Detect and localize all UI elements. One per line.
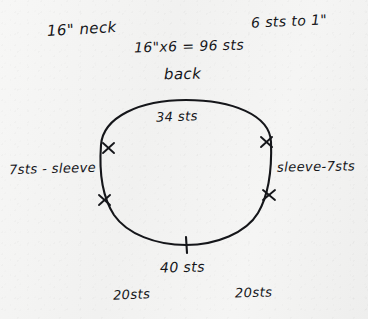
left-shoulder-stitch-count-label: 20sts <box>113 287 151 301</box>
neck-measure-note: 16" neck <box>47 20 117 39</box>
right-shoulder-stitch-count-label: 20sts <box>235 286 273 300</box>
front-stitch-count-label: 40 sts <box>160 260 205 275</box>
right-sleeve-label: sleeve-7sts <box>277 159 355 173</box>
gauge-note: 6 sts to 1" <box>251 12 328 29</box>
bottom-center-marker <box>186 237 187 253</box>
back-label: back <box>164 67 202 83</box>
handwritten-sketch-page: 16" neck 6 sts to 1" 16"x6 = 96 sts back… <box>0 0 368 319</box>
back-stitch-count-label: 34 sts <box>156 109 198 123</box>
stitch-calculation-note: 16"x6 = 96 sts <box>134 38 244 55</box>
left-sleeve-label: 7sts - sleeve <box>9 161 96 176</box>
left-upper-marker <box>103 143 114 153</box>
